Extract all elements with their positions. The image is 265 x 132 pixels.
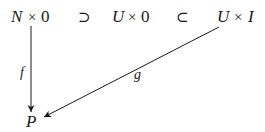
times-symbol: × [28, 10, 36, 25]
node-p: P [26, 113, 36, 130]
node-u0-factor: 0 [141, 8, 150, 25]
node-ui-var: U [217, 8, 229, 25]
subset-symbol: ⊂ [176, 10, 189, 25]
arrow-g [44, 27, 219, 117]
times-symbol: × [234, 10, 242, 25]
node-n-factor: 0 [41, 8, 50, 25]
superset-symbol: ⊃ [78, 10, 91, 25]
node-n-var: N [11, 8, 22, 25]
node-u0-var: U [112, 8, 124, 25]
commutative-diagram: N × 0 ⊃ U × 0 ⊂ U × I f g P [0, 0, 265, 132]
arrow-f-label: f [20, 66, 24, 80]
times-symbol: × [128, 10, 136, 25]
node-ui-factor: I [248, 8, 254, 25]
arrow-g-label: g [134, 68, 141, 82]
